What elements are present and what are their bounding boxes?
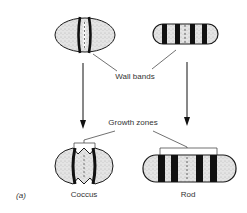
coccus-before bbox=[55, 17, 115, 53]
rod-label: Rod bbox=[181, 191, 196, 199]
growth-zones-bracket-right bbox=[153, 131, 217, 155]
wall-bands-leader-right bbox=[152, 50, 176, 69]
wall-bands-leader-left bbox=[93, 54, 117, 71]
growth-zones-label: Growth zones bbox=[108, 119, 157, 127]
arrow-down-right-icon bbox=[184, 62, 190, 126]
diagram-canvas bbox=[0, 0, 247, 213]
rod-after bbox=[143, 155, 236, 182]
rod-before bbox=[153, 24, 218, 44]
panel-label: (a) bbox=[16, 192, 26, 200]
coccus-label: Coccus bbox=[71, 191, 98, 199]
arrow-down-left-icon bbox=[80, 63, 86, 129]
growth-zones-bracket-left bbox=[74, 131, 115, 148]
coccus-after bbox=[55, 148, 113, 184]
wall-bands-label: Wall bands bbox=[115, 73, 154, 81]
